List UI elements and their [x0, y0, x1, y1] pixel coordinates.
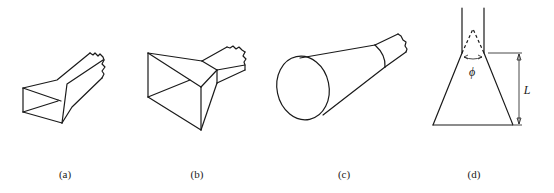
horn-antenna-diagram	[0, 0, 554, 193]
panel-label-b: (b)	[191, 168, 204, 180]
panel-label-c: (c)	[338, 168, 350, 180]
panel-label-a: (a)	[59, 168, 71, 180]
pyramidal-horn-drawing	[148, 46, 246, 130]
horn-cross-section-drawing	[433, 8, 522, 125]
panel-label-d: (d)	[468, 168, 481, 180]
flare-angle-label: ϕ	[469, 65, 475, 80]
conical-horn-drawing	[271, 34, 407, 125]
sectoral-horn-drawing	[23, 53, 105, 123]
length-label: L	[524, 83, 531, 98]
